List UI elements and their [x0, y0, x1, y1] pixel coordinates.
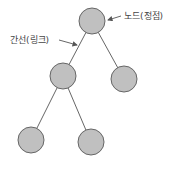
- edge-label: 간선(링크): [10, 34, 49, 45]
- node-label: 노드(정점): [124, 10, 163, 21]
- edge-arrow-icon: [59, 40, 77, 45]
- node-bottom-left: [18, 127, 44, 153]
- node-mid-right: [111, 66, 137, 92]
- node-arrow-icon: [108, 16, 121, 20]
- node-mid-left: [50, 63, 76, 89]
- node-bottom-right: [78, 129, 104, 155]
- node-root: [79, 8, 105, 34]
- tree-diagram: 노드(정점) 간선(링크): [0, 0, 171, 171]
- nodes-group: [18, 8, 137, 155]
